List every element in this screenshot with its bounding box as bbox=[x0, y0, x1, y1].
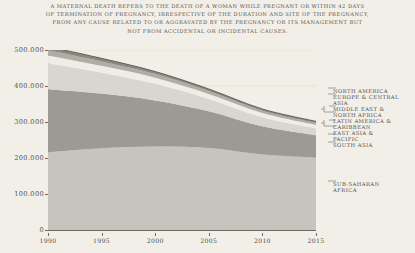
title-line-4: not from accidental or incidental causes… bbox=[0, 27, 415, 35]
legend-item-east-asia: East Asia & Pacific bbox=[333, 130, 415, 142]
connector-line bbox=[321, 120, 329, 126]
x-tick-mark bbox=[262, 233, 263, 236]
y-tick-label: 200.000 bbox=[14, 154, 44, 162]
x-tick-label: 2000 bbox=[147, 237, 164, 244]
x-tick-label: 1990 bbox=[40, 237, 57, 244]
legend-item-middle-east: Middle East & North Africa bbox=[333, 106, 415, 118]
y-axis-labels: 0100.000200.000300.000400.000500.000 bbox=[0, 50, 44, 230]
legend-item-sub-saharan-africa: Sub-Saharan Africa bbox=[333, 181, 415, 193]
x-tick-mark bbox=[209, 233, 210, 236]
legend-item-europe-central: Europe & Central Asia bbox=[333, 94, 415, 106]
x-axis-labels: 199019952000200520102015 bbox=[48, 233, 316, 247]
title-line-2: of termination of pregnancy, irrespectiv… bbox=[0, 10, 415, 18]
x-tick-label: 2005 bbox=[200, 237, 217, 244]
y-tick-label: 100.000 bbox=[14, 190, 44, 198]
x-tick-label: 2015 bbox=[308, 237, 325, 244]
area-sub-saharan-africa bbox=[48, 146, 316, 230]
x-tick-mark bbox=[48, 233, 49, 236]
x-tick-mark bbox=[102, 233, 103, 236]
connector-line bbox=[321, 106, 329, 112]
x-tick-label: 1995 bbox=[93, 237, 110, 244]
y-tick-mark bbox=[45, 230, 48, 231]
x-tick-label: 2010 bbox=[254, 237, 271, 244]
chart-title: A maternal death refers to the death of … bbox=[0, 2, 415, 35]
plot-area bbox=[48, 50, 316, 230]
x-axis-line bbox=[48, 230, 316, 231]
x-tick-mark bbox=[316, 233, 317, 236]
title-line-3: from any cause related to or aggravated … bbox=[0, 18, 415, 26]
y-tick-label: 0 bbox=[39, 226, 44, 234]
y-tick-label: 500.000 bbox=[14, 46, 44, 54]
legend: North AmericaEurope & Central AsiaMiddle… bbox=[333, 88, 415, 148]
x-tick-mark bbox=[155, 233, 156, 236]
legend-item-latin-america: Latin America & Caribbean bbox=[333, 118, 415, 130]
y-tick-label: 300.000 bbox=[14, 118, 44, 126]
title-line-1: A maternal death refers to the death of … bbox=[0, 2, 415, 10]
stacked-area-chart bbox=[48, 50, 316, 230]
legend-item-south-asia: South Asia bbox=[333, 142, 415, 148]
y-tick-label: 400.000 bbox=[14, 82, 44, 90]
